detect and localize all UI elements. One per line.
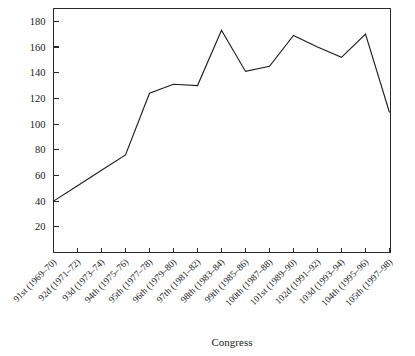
y-tick-label: 180 xyxy=(30,16,46,27)
chart-figure: 20406080100120140160180 91st (1969–70)92… xyxy=(0,0,415,356)
y-tick-label: 80 xyxy=(35,144,46,155)
y-tick-label: 40 xyxy=(35,196,46,207)
y-tick-label: 120 xyxy=(30,93,46,104)
y-tick-label: 20 xyxy=(35,221,46,232)
y-tick-label: 160 xyxy=(30,42,46,53)
y-tick-label: 60 xyxy=(35,170,46,181)
y-tick-label: 100 xyxy=(30,119,46,130)
line-chart: 20406080100120140160180 91st (1969–70)92… xyxy=(0,0,415,356)
y-tick-label: 140 xyxy=(30,67,46,78)
x-axis-title: Congress xyxy=(212,336,253,348)
